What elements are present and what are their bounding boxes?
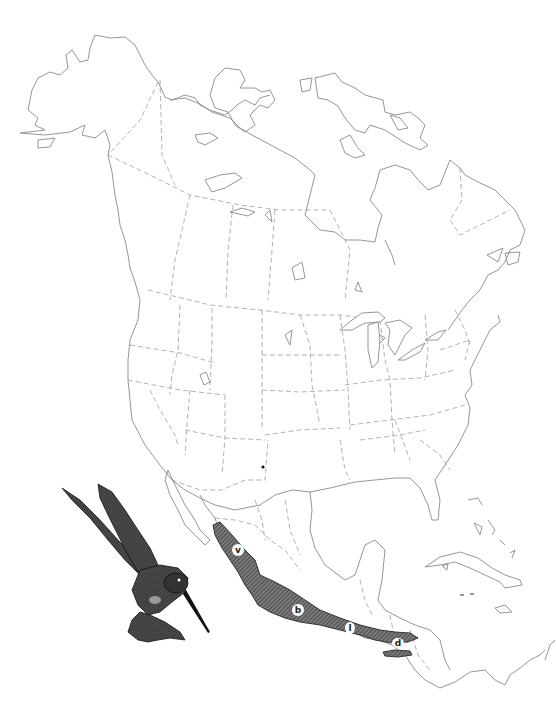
svg-text:d: d [395, 638, 401, 648]
alaska-outline [20, 35, 270, 155]
arctic-islands [195, 68, 428, 192]
svg-text:v: v [235, 545, 241, 555]
locality-marker [261, 465, 264, 468]
range-label-v: v [232, 544, 244, 556]
svg-text:l: l [348, 623, 351, 633]
range-label-d: d [392, 638, 404, 648]
hummingbird-icon [62, 484, 210, 642]
svg-text:b: b [295, 605, 302, 615]
range-label-b: b [292, 604, 304, 616]
canada-outline [108, 80, 525, 345]
united-states-outline [128, 282, 500, 545]
range-map: v b l d [0, 0, 556, 719]
range-label-l: l [345, 622, 355, 634]
caribbean-islands [425, 498, 555, 660]
mexico-outline [200, 492, 392, 645]
species-range [213, 522, 418, 657]
